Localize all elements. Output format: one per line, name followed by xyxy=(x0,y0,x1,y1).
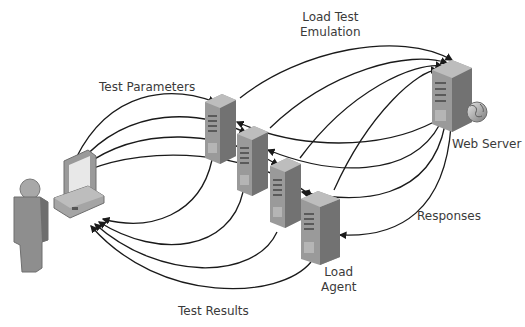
load-agent-server-2 xyxy=(237,126,268,196)
desktop-computer-icon xyxy=(54,150,104,218)
load-agent-server-1 xyxy=(205,94,236,164)
load-agent-server-3 xyxy=(270,158,301,228)
label-load-test-emulation: Load Test Emulation xyxy=(300,10,361,40)
load-test-diagram: Test Parameters Load Test Emulation Web … xyxy=(0,0,525,327)
label-load-test-emulation-line1: Load Test xyxy=(300,10,361,25)
diagram-canvas xyxy=(0,0,525,327)
web-server-icon xyxy=(432,60,472,132)
label-load-agent-line2: Agent xyxy=(321,280,357,295)
load-agent-server-4 xyxy=(301,191,340,265)
label-test-parameters: Test Parameters xyxy=(99,80,195,95)
label-web-server: Web Server xyxy=(452,137,521,152)
label-load-agent: Load Agent xyxy=(321,265,357,295)
label-load-agent-line1: Load xyxy=(321,265,357,280)
label-load-test-emulation-line2: Emulation xyxy=(300,25,361,40)
person-icon xyxy=(14,179,48,272)
label-test-results: Test Results xyxy=(178,304,249,319)
globe-icon xyxy=(467,102,487,122)
label-responses: Responses xyxy=(417,209,481,224)
